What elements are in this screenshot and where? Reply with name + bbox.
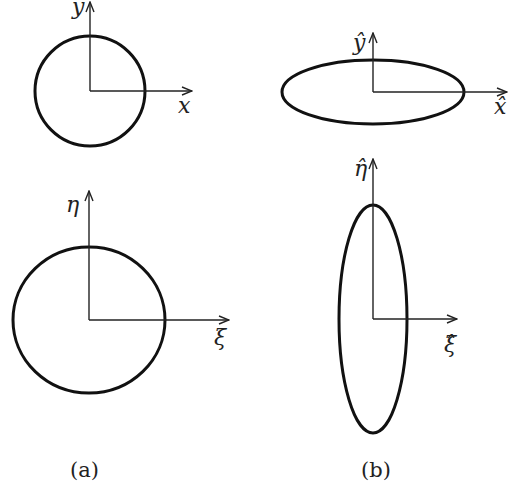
xhat-axis-label: x̂	[494, 94, 507, 119]
etahat-axis-label: η̂	[354, 156, 367, 181]
panel-b-top: ŷ x̂	[282, 30, 507, 124]
eta-axis-label: η	[66, 192, 79, 217]
panel-b-bottom: η̂ ξ̂	[339, 156, 458, 433]
panel-a-bottom: η ξ	[13, 191, 229, 393]
x-axis-label: x	[178, 93, 191, 118]
xi-axis-label: ξ	[214, 325, 228, 350]
xihat-axis-label: ξ̂	[444, 332, 458, 357]
panel-a-top: y x	[35, 0, 192, 146]
y-axis-label: y	[71, 0, 85, 19]
caption-b: (b)	[361, 458, 391, 482]
caption-a: (a)	[70, 458, 99, 482]
coordinate-transform-diagram: y x η ξ ŷ x̂ η̂ ξ̂ (a) (b)	[0, 0, 509, 498]
yhat-axis-label: ŷ	[352, 30, 366, 55]
